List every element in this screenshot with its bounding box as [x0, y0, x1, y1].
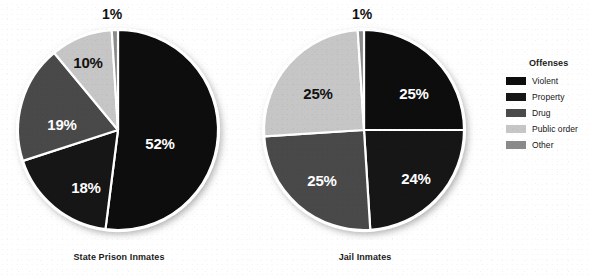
- legend-item-other[interactable]: Other: [506, 138, 589, 151]
- pie-1-caption: State Prison Inmates: [4, 252, 234, 262]
- pie-chart-jail: Jail Inmates 25%24%25%25%1%: [250, 0, 480, 276]
- legend-swatch-icon: [506, 77, 526, 85]
- slice-label-drug: 19%: [47, 116, 76, 133]
- legend-item-drug[interactable]: Drug: [506, 106, 589, 119]
- slice-label-violent: 52%: [145, 135, 174, 152]
- legend-swatch-icon: [506, 141, 526, 149]
- pie-slice-violent[interactable]: [105, 30, 218, 230]
- pie-slice-violent[interactable]: [364, 30, 464, 130]
- legend-swatch-icon: [506, 109, 526, 117]
- legend-item-label: Drug: [532, 108, 551, 118]
- pie-chart-state-prison: State Prison Inmates 52%18%19%10%1%: [4, 0, 234, 276]
- legend-swatch-icon: [506, 125, 526, 133]
- legend-item-property[interactable]: Property: [506, 90, 589, 103]
- pie-chart-figure: State Prison Inmates 52%18%19%10%1% Jail…: [0, 0, 589, 276]
- legend-item-label: Violent: [532, 76, 558, 86]
- legend-title: Offenses: [529, 58, 589, 68]
- legend: Offenses ViolentPropertyDrugPublic order…: [506, 58, 589, 154]
- legend-item-label: Property: [532, 92, 565, 102]
- slice-label-other: 1%: [102, 6, 122, 22]
- pie-1-svg: [4, 0, 234, 240]
- pie-2-svg: [250, 0, 480, 240]
- slice-label-property: 24%: [401, 170, 430, 187]
- slice-label-other: 1%: [352, 6, 372, 22]
- legend-item-label: Other: [532, 140, 554, 150]
- legend-item-public-order[interactable]: Public order: [506, 122, 589, 135]
- slice-label-public-order: 25%: [303, 85, 332, 102]
- slice-label-property: 18%: [71, 179, 100, 196]
- legend-item-violent[interactable]: Violent: [506, 74, 589, 87]
- legend-swatch-icon: [506, 93, 526, 101]
- slice-label-drug: 25%: [307, 172, 336, 189]
- legend-item-label: Public order: [532, 124, 578, 134]
- pie-2-caption: Jail Inmates: [250, 252, 480, 262]
- slice-label-violent: 25%: [399, 85, 428, 102]
- pie-slice-public-order[interactable]: [264, 30, 364, 136]
- slice-label-public-order: 10%: [73, 54, 102, 71]
- legend-items: ViolentPropertyDrugPublic orderOther: [506, 74, 589, 151]
